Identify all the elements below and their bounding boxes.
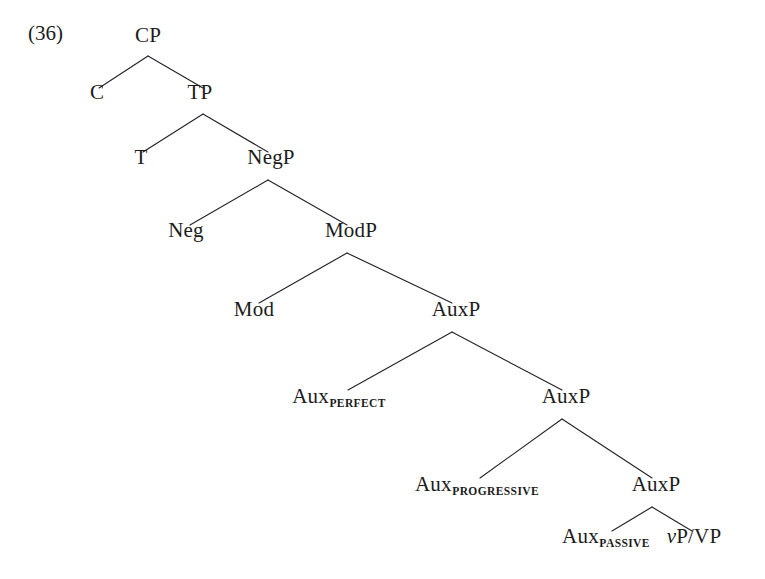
tree-node-label: CP [135, 23, 161, 47]
tree-node-label: TP [188, 80, 213, 104]
tree-node-auxp-2: AuxP [542, 386, 591, 407]
example-number-label: (36) [28, 23, 63, 44]
tree-node-subscript: PASSIVE [599, 537, 650, 549]
tree-node-label: AuxP [432, 297, 481, 321]
tree-node-subscript: PROGRESSIVE [452, 485, 539, 497]
tree-node-aux-progressive: AuxPROGRESSIVE [415, 474, 539, 495]
tree-node-modp: ModP [325, 220, 377, 241]
tree-node-label: T [134, 145, 147, 169]
tree-node-label: C [90, 80, 104, 104]
tree-node-italic-prefix: v [667, 524, 677, 548]
tree-node-subscript: PERFECT [329, 397, 385, 409]
tree-node-label: Neg [168, 218, 204, 242]
tree-branch-auxp-2-to-auxp-3 [562, 419, 652, 478]
tree-branch-auxp-1-to-aux-perfect [348, 332, 452, 390]
tree-node-label: P/VP [676, 524, 721, 548]
tree-node-aux-passive: AuxPASSIVE [562, 526, 650, 547]
tree-branch-auxp-2-to-aux-progressive [480, 419, 562, 478]
tree-node-cp: CP [135, 25, 161, 46]
tree-node-auxp-1: AuxP [432, 299, 481, 320]
tree-node-label: AuxP [542, 384, 591, 408]
tree-node-label: Aux [562, 524, 599, 548]
tree-node-c: C [90, 82, 104, 103]
tree-node-vp-vp: vP/VP [667, 526, 722, 547]
syntax-tree-figure: (36) CPCTPTNegPNegModPModAuxPAuxPERFECTA… [0, 0, 765, 579]
tree-branch-modp-to-mod [259, 253, 347, 303]
tree-node-label: NegP [247, 145, 294, 169]
tree-branch-modp-to-auxp-1 [347, 253, 452, 303]
tree-node-label: Aux [415, 472, 452, 496]
tree-node-neg: Neg [168, 220, 204, 241]
tree-node-label: AuxP [632, 472, 681, 496]
tree-branch-auxp-1-to-auxp-2 [452, 332, 562, 390]
tree-node-label: Mod [234, 297, 274, 321]
clipped-text-artifact [0, 0, 765, 12]
tree-node-negp: NegP [247, 147, 294, 168]
tree-node-t: T [134, 147, 147, 168]
tree-branch-tp-to-t [143, 114, 203, 152]
tree-node-tp: TP [188, 82, 213, 103]
tree-branch-cp-to-c [99, 56, 148, 88]
tree-node-aux-perfect: AuxPERFECT [292, 386, 386, 407]
tree-node-mod: Mod [234, 299, 274, 320]
tree-node-label: ModP [325, 218, 377, 242]
tree-node-auxp-3: AuxP [632, 474, 681, 495]
tree-node-label: Aux [292, 384, 329, 408]
